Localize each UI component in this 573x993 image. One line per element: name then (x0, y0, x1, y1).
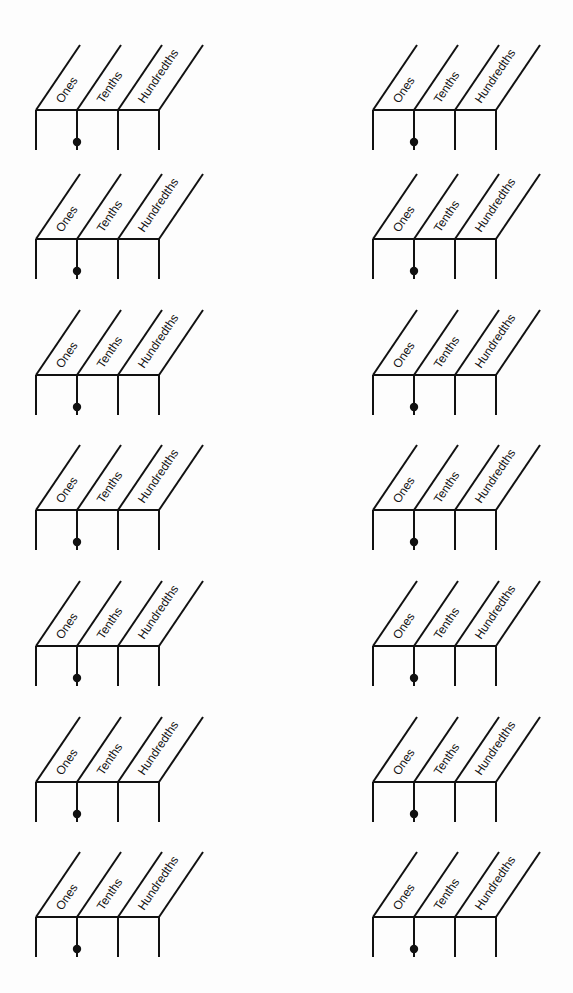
decimal-point-dot (73, 810, 81, 818)
decimal-point-dot (410, 810, 418, 818)
column-label-tenths: Tenths (94, 605, 125, 642)
place-value-chart: OnesTenthsHundredths (36, 445, 203, 550)
place-value-chart: OnesTenthsHundredths (373, 45, 540, 150)
column-label-tenths: Tenths (431, 69, 462, 106)
column-label-tenths: Tenths (431, 198, 462, 235)
place-value-chart: OnesTenthsHundredths (373, 310, 540, 415)
column-label-tenths: Tenths (94, 198, 125, 235)
column-label-tenths: Tenths (431, 605, 462, 642)
decimal-point-dot (73, 267, 81, 275)
column-label-tenths: Tenths (431, 469, 462, 506)
column-label-tenths: Tenths (431, 741, 462, 778)
place-value-chart: OnesTenthsHundredths (373, 581, 540, 686)
column-label-tenths: Tenths (94, 469, 125, 506)
place-value-chart: OnesTenthsHundredths (373, 174, 540, 279)
column-label-tenths: Tenths (431, 334, 462, 371)
column-label-tenths: Tenths (94, 334, 125, 371)
decimal-point-dot (73, 138, 81, 146)
place-value-chart: OnesTenthsHundredths (36, 310, 203, 415)
place-value-chart: OnesTenthsHundredths (373, 852, 540, 957)
column-label-tenths: Tenths (94, 69, 125, 106)
place-value-charts-grid: OnesTenthsHundredthsOnesTenthsHundredths… (0, 0, 573, 993)
decimal-point-dot (410, 267, 418, 275)
worksheet-page: OnesTenthsHundredthsOnesTenthsHundredths… (0, 0, 573, 993)
decimal-point-dot (73, 674, 81, 682)
decimal-point-dot (73, 538, 81, 546)
column-label-tenths: Tenths (94, 741, 125, 778)
place-value-chart: OnesTenthsHundredths (373, 717, 540, 822)
decimal-point-dot (73, 945, 81, 953)
place-value-chart: OnesTenthsHundredths (36, 717, 203, 822)
decimal-point-dot (73, 403, 81, 411)
place-value-chart: OnesTenthsHundredths (36, 45, 203, 150)
decimal-point-dot (410, 138, 418, 146)
decimal-point-dot (410, 403, 418, 411)
decimal-point-dot (410, 674, 418, 682)
column-label-tenths: Tenths (94, 876, 125, 913)
decimal-point-dot (410, 538, 418, 546)
place-value-chart: OnesTenthsHundredths (373, 445, 540, 550)
column-label-tenths: Tenths (431, 876, 462, 913)
place-value-chart: OnesTenthsHundredths (36, 581, 203, 686)
decimal-point-dot (410, 945, 418, 953)
place-value-chart: OnesTenthsHundredths (36, 852, 203, 957)
place-value-chart: OnesTenthsHundredths (36, 174, 203, 279)
